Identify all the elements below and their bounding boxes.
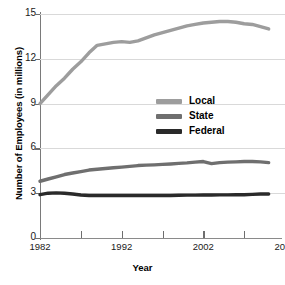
- legend-label: State: [189, 111, 213, 121]
- series-line-state: [40, 162, 269, 182]
- x-axis-title: Year: [0, 262, 285, 273]
- x-axis-tick-label: 2012: [265, 241, 285, 252]
- y-axis-tick-label: 12: [14, 53, 36, 63]
- chart-legend: LocalStateFederal: [156, 96, 225, 136]
- legend-label: Federal: [189, 126, 225, 136]
- y-axis-tick-label: 3: [14, 187, 36, 197]
- y-axis-tick-label: 9: [14, 98, 36, 108]
- x-axis-tick-label: 1982: [20, 241, 60, 252]
- x-axis-tick-label: 1992: [102, 241, 142, 252]
- legend-label: Local: [189, 96, 215, 106]
- legend-item-local: Local: [156, 96, 225, 106]
- y-axis-tick-label: 15: [14, 8, 36, 18]
- series-line-federal: [40, 193, 269, 196]
- legend-item-federal: Federal: [156, 126, 225, 136]
- cropped-caption-row: [0, 277, 285, 285]
- y-axis-tick-label: 6: [14, 142, 36, 152]
- legend-swatch-icon: [156, 129, 182, 134]
- series-line-local: [40, 21, 269, 103]
- legend-swatch-icon: [156, 99, 182, 104]
- x-axis-tick-label: 2002: [183, 241, 223, 252]
- legend-swatch-icon: [156, 114, 182, 119]
- chart-container: Number of Employees (in millions) Year 0…: [0, 0, 285, 285]
- legend-item-state: State: [156, 111, 225, 121]
- x-axis-line: [40, 238, 282, 239]
